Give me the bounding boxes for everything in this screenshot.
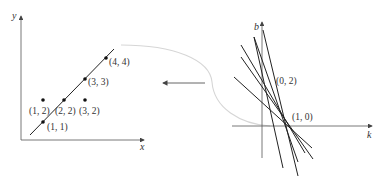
x-axis-label: x <box>139 141 145 152</box>
y-axis-label: y <box>11 10 17 21</box>
hough-transform-diagram: y x (1, 1) (2, 2) (3, 3) (4, 4) (1, 2) (… <box>0 0 380 187</box>
label-1-1: (1, 1) <box>47 122 68 133</box>
param-line <box>241 45 305 153</box>
point-3-2 <box>83 98 87 102</box>
k-axis-label: k <box>367 129 372 140</box>
param-line <box>241 57 313 159</box>
param-line <box>254 37 283 168</box>
label-2-2: (2, 2) <box>55 106 76 117</box>
label-0-2: (0, 2) <box>276 76 297 87</box>
label-1-2: (1, 2) <box>29 106 50 117</box>
point-1-1 <box>41 120 45 124</box>
label-3-2: (3, 2) <box>79 106 100 117</box>
point-3-3 <box>83 77 87 81</box>
label-1-0: (1, 0) <box>292 112 313 123</box>
right-plot: b k (0, 2) (1, 0) <box>232 21 372 176</box>
b-axis-label: b <box>254 21 259 32</box>
point-1-2 <box>41 98 45 102</box>
left-plot: y x (1, 1) (2, 2) (3, 3) (4, 4) (1, 2) (… <box>11 10 145 152</box>
parameter-lines <box>234 30 313 176</box>
label-4-4: (4, 4) <box>109 57 130 68</box>
param-line <box>254 37 298 162</box>
label-3-3: (3, 3) <box>88 77 109 88</box>
point-4-4 <box>104 56 108 60</box>
point-2-2 <box>62 98 66 102</box>
